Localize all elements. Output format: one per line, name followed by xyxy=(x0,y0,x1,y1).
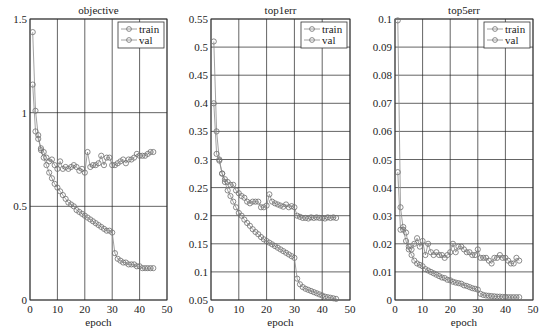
y-tick-label: 0.05 xyxy=(373,154,393,166)
legend: trainval xyxy=(484,22,530,48)
y-tick-label: 0.25 xyxy=(189,182,209,194)
top5err-chart: 0102030405000.010.020.030.040.050.060.07… xyxy=(373,4,539,328)
y-tick-label: 0.5 xyxy=(13,200,27,212)
figure: 0102030405000.511.5objectiveepochtrainva… xyxy=(0,0,543,334)
x-tick-label: 30 xyxy=(472,303,484,315)
y-tick-label: 0.02 xyxy=(373,238,392,250)
y-tick-label: 0 xyxy=(387,294,393,306)
chart-title: top5err xyxy=(448,4,480,16)
x-tick-label: 0 xyxy=(208,303,214,315)
y-tick-label: 0.07 xyxy=(373,97,393,109)
x-axis-label: epoch xyxy=(267,316,294,328)
y-tick-label: 0.35 xyxy=(189,125,209,137)
y-tick-label: 0.55 xyxy=(189,13,209,25)
x-tick-label: 50 xyxy=(528,303,540,315)
legend: trainval xyxy=(118,22,164,48)
y-tick-label: 0.08 xyxy=(373,69,393,81)
y-tick-label: 0 xyxy=(22,294,28,306)
y-tick-label: 0.1 xyxy=(194,266,208,278)
y-tick-label: 0.3 xyxy=(194,154,208,166)
y-tick-label: 0.05 xyxy=(189,294,209,306)
legend-label: val xyxy=(322,34,335,46)
y-tick-label: 0.09 xyxy=(373,41,393,53)
legend: trainval xyxy=(301,22,347,48)
x-tick-label: 40 xyxy=(134,303,146,315)
top1err-chart: 010203040500.050.10.150.20.250.30.350.40… xyxy=(189,4,356,328)
x-tick-label: 30 xyxy=(107,303,119,315)
y-tick-label: 0.01 xyxy=(373,266,392,278)
legend-label: val xyxy=(505,34,518,46)
x-tick-label: 20 xyxy=(79,303,91,315)
x-tick-label: 50 xyxy=(162,303,174,315)
x-tick-label: 10 xyxy=(52,303,64,315)
x-tick-label: 10 xyxy=(417,303,429,315)
x-axis-label: epoch xyxy=(85,316,112,328)
x-tick-label: 10 xyxy=(233,303,245,315)
y-tick-label: 0.04 xyxy=(373,182,393,194)
x-axis-label: epoch xyxy=(451,316,478,328)
x-tick-label: 0 xyxy=(27,303,33,315)
objective-chart: 0102030405000.511.5objectiveepochtrainva… xyxy=(13,4,173,328)
x-tick-label: 30 xyxy=(289,303,301,315)
chart-title: objective xyxy=(78,4,118,16)
x-tick-label: 0 xyxy=(392,303,398,315)
x-tick-label: 50 xyxy=(345,303,357,315)
y-tick-label: 0.5 xyxy=(194,41,208,53)
y-tick-label: 0.2 xyxy=(194,210,208,222)
legend-label: val xyxy=(139,34,152,46)
x-tick-label: 20 xyxy=(445,303,457,315)
y-tick-label: 1 xyxy=(22,107,28,119)
chart-title: top1err xyxy=(265,4,297,16)
y-tick-label: 1.5 xyxy=(13,13,27,25)
y-tick-label: 0.4 xyxy=(194,97,208,109)
y-tick-label: 0.03 xyxy=(373,210,393,222)
y-tick-label: 0.06 xyxy=(373,125,393,137)
x-tick-label: 40 xyxy=(500,303,512,315)
y-tick-label: 0.1 xyxy=(378,13,392,25)
y-tick-label: 0.15 xyxy=(189,238,209,250)
y-tick-label: 0.45 xyxy=(189,69,209,81)
x-tick-label: 20 xyxy=(261,303,273,315)
x-tick-label: 40 xyxy=(317,303,329,315)
